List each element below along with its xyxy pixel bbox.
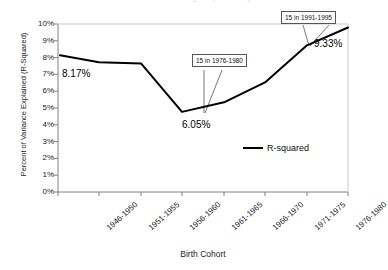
x-tick-label: 1961-1965: [230, 200, 264, 232]
data-label-last-labeled-point: 9.33%: [314, 38, 342, 49]
x-tick-label: 1971-1975: [313, 200, 347, 232]
annotation-callout-1976-1980: 15 in 1976-1980: [192, 54, 247, 67]
data-label-minimum-point: 6.05%: [182, 119, 210, 130]
data-label-first-point: 8.17%: [62, 68, 90, 79]
legend-line-swatch: [243, 147, 263, 150]
x-tick-label: 1946-1950: [105, 200, 139, 232]
x-tick-label: 1956-1960: [188, 200, 222, 232]
x-tick-label: 1976-1980: [354, 200, 388, 232]
annotation-callout-1991-1995: 15 in 1991-1995: [281, 11, 336, 24]
x-tick-label: 1966-1970: [271, 200, 305, 232]
y-axis-title: Percent of Variance Explained (R-Squared…: [19, 10, 28, 200]
x-axis-title: Birth Cohort: [58, 249, 348, 259]
x-tick-label: 1951-1955: [147, 200, 181, 232]
chart-legend: R-squared: [243, 143, 309, 153]
legend-label-r-squared: R-squared: [267, 143, 309, 153]
